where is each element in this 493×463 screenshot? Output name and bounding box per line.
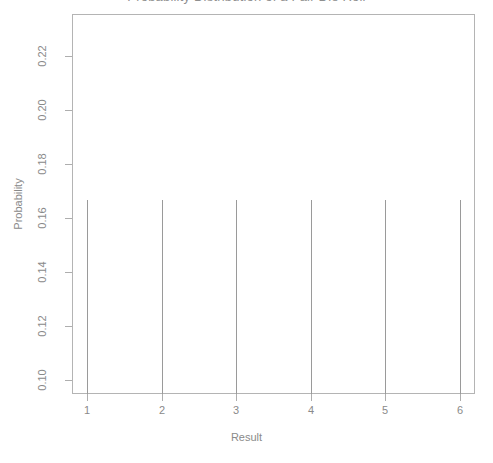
plot-frame — [72, 14, 475, 394]
x-tick-label: 2 — [147, 404, 177, 416]
x-tick-label: 3 — [221, 404, 251, 416]
x-tick-label: 1 — [72, 404, 102, 416]
x-tick-mark — [311, 394, 312, 401]
y-tick-label: 0.14 — [36, 252, 50, 292]
y-tick-mark — [65, 218, 72, 219]
y-tick-label: 0.20 — [36, 90, 50, 130]
x-tick-mark — [236, 394, 237, 401]
x-tick-mark — [385, 394, 386, 401]
chart-screenshot: Probability Distribution of a Fair Die R… — [0, 0, 493, 463]
y-tick-label: 0.12 — [36, 306, 50, 346]
y-tick-label: 0.22 — [36, 36, 50, 76]
y-tick-mark — [65, 272, 72, 273]
x-tick-mark — [162, 394, 163, 401]
y-tick-label: 0.16 — [36, 198, 50, 238]
spike-bar — [311, 200, 312, 394]
y-tick-mark — [65, 56, 72, 57]
y-tick-label: 0.18 — [36, 144, 50, 184]
x-tick-label: 4 — [296, 404, 326, 416]
spike-bar — [162, 200, 163, 394]
x-tick-mark — [87, 394, 88, 401]
y-axis-title: Probability — [12, 14, 28, 394]
y-tick-mark — [65, 110, 72, 111]
spike-bar — [87, 200, 88, 394]
spike-bar — [236, 200, 237, 394]
chart-title: Probability Distribution of a Fair Die R… — [0, 0, 493, 4]
y-tick-mark — [65, 380, 72, 381]
x-tick-mark — [460, 394, 461, 401]
spike-bar — [385, 200, 386, 394]
x-tick-label: 5 — [370, 404, 400, 416]
y-tick-mark — [65, 164, 72, 165]
y-tick-label: 0.10 — [36, 360, 50, 400]
y-tick-mark — [65, 326, 72, 327]
x-tick-label: 6 — [445, 404, 475, 416]
spike-bar — [460, 200, 461, 394]
x-axis-title: Result — [0, 431, 493, 443]
